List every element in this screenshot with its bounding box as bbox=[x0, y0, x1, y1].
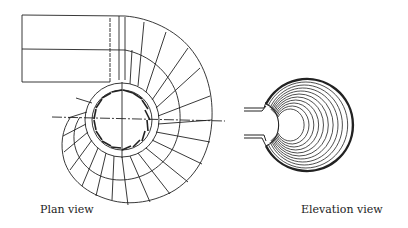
inlet-stubs bbox=[244, 102, 266, 146]
spiral-outer bbox=[62, 16, 212, 203]
casing-section-rings bbox=[266, 79, 353, 171]
elevation-view-label: Elevation view bbox=[301, 203, 383, 216]
plan-view-label: Plan view bbox=[40, 203, 94, 216]
inlet-duct bbox=[22, 15, 125, 82]
diagram-canvas bbox=[0, 0, 408, 228]
spiral-middle bbox=[74, 50, 180, 180]
elevation-view-drawing bbox=[244, 79, 353, 171]
plan-view-drawing bbox=[22, 15, 225, 205]
